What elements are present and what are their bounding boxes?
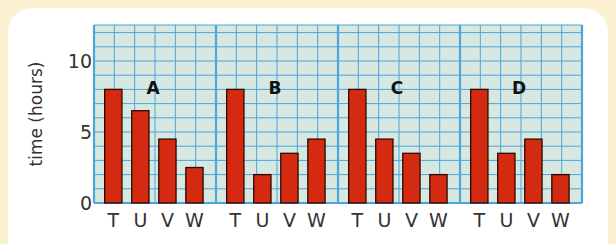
x-tick-label: W: [429, 209, 448, 231]
bar-A-U: [132, 111, 149, 203]
bar-B-W: [308, 139, 325, 203]
panel-label-C: C: [391, 78, 403, 98]
x-tick-label: T: [107, 209, 120, 231]
bar-C-U: [376, 139, 393, 203]
x-tick-label: V: [405, 209, 418, 231]
bar-A-W: [186, 168, 203, 204]
bar-C-T: [349, 89, 366, 203]
x-tick-label: V: [283, 209, 296, 231]
x-tick-label: U: [499, 209, 513, 231]
panel-label-D: D: [512, 78, 526, 98]
bar-B-T: [227, 89, 244, 203]
x-tick-label: T: [351, 209, 364, 231]
x-tick-label: V: [161, 209, 174, 231]
x-tick-label: U: [377, 209, 391, 231]
bar-C-W: [430, 175, 447, 203]
bar-A-T: [105, 89, 122, 203]
x-tick-label: V: [527, 209, 540, 231]
bar-chart-plot: TUVWATUVWBTUVWCTUVWD: [0, 0, 616, 244]
x-tick-label: U: [133, 209, 147, 231]
panel-label-A: A: [146, 78, 160, 98]
bar-D-W: [552, 175, 569, 203]
bar-D-T: [471, 89, 488, 203]
x-tick-label: W: [307, 209, 326, 231]
panel-label-B: B: [268, 78, 281, 98]
x-tick-label: W: [551, 209, 570, 231]
x-tick-label: T: [473, 209, 486, 231]
bar-C-V: [403, 153, 420, 203]
bar-B-U: [254, 175, 271, 203]
x-tick-label: U: [255, 209, 269, 231]
bar-D-V: [525, 139, 542, 203]
bar-A-V: [159, 139, 176, 203]
bar-B-V: [281, 153, 298, 203]
x-tick-label: T: [229, 209, 242, 231]
x-tick-label: W: [185, 209, 204, 231]
bar-D-U: [498, 153, 515, 203]
